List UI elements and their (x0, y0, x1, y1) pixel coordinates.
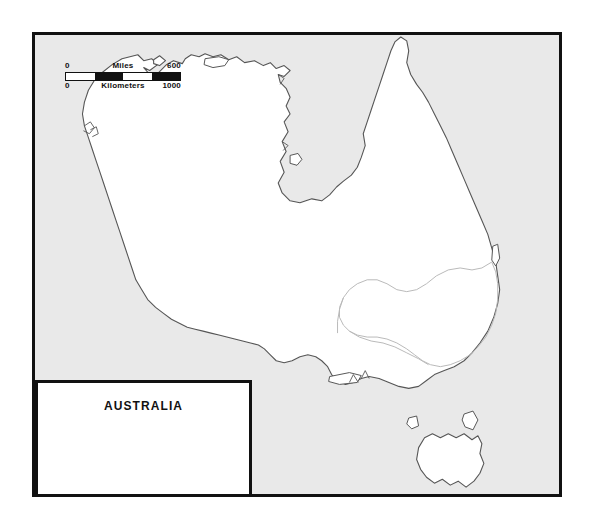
melville-island (204, 57, 229, 68)
map-title-label: AUSTRALIA (38, 399, 249, 413)
map-page: 0 Miles 600 0 Kilometers 1000 AUSTRALIA (0, 0, 592, 526)
scale-bar-kilometers-labels: 0 Kilometers 1000 (65, 81, 181, 92)
scale-segment (66, 73, 95, 80)
legend-box: AUSTRALIA (35, 380, 252, 497)
scale-segment (95, 73, 124, 80)
scale-miles-max: 600 (167, 61, 181, 70)
scale-kilometers-max: 1000 (162, 81, 181, 90)
scale-bar: 0 Miles 600 0 Kilometers 1000 (65, 61, 181, 92)
map-frame: 0 Miles 600 0 Kilometers 1000 AUSTRALIA (32, 32, 562, 497)
scale-segment (123, 73, 152, 80)
scale-miles-unit: Miles (65, 61, 181, 70)
scale-bar-miles-labels: 0 Miles 600 (65, 61, 181, 72)
scale-segment (152, 73, 181, 80)
scale-bar-track (65, 72, 181, 81)
